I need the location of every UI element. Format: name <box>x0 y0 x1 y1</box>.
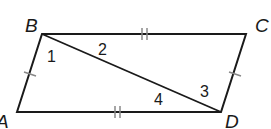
vertex-label-b: B <box>25 15 38 36</box>
vertex-label-a: A <box>0 111 9 129</box>
diagonal-bd <box>42 34 221 112</box>
angle-label-2: 2 <box>98 41 107 58</box>
vertex-label-c: C <box>255 15 269 36</box>
parallelogram-diagram: B C A D 1 2 3 4 <box>0 0 271 129</box>
angle-label-1: 1 <box>47 48 56 65</box>
tick-mark-cd <box>229 72 241 76</box>
angle-label-4: 4 <box>154 91 163 108</box>
vertex-label-d: D <box>225 111 239 129</box>
angle-label-3: 3 <box>200 83 209 100</box>
